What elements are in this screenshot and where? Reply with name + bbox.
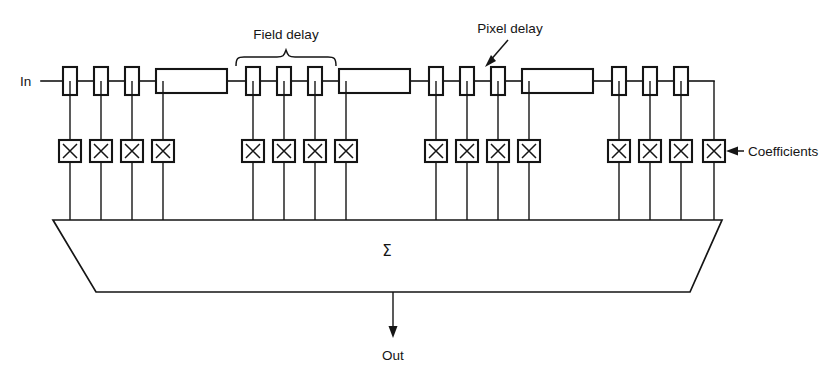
- tap-lines-lower: [70, 162, 714, 220]
- multiplier: [425, 140, 447, 162]
- field-delay-box: [522, 69, 593, 93]
- coefficients-annotation: Coefficients: [726, 144, 819, 159]
- diagram-canvas: Σ Field delay Pixel delay Coefficients I…: [0, 0, 821, 371]
- coefficients-arrowhead: [726, 147, 738, 156]
- multiplier: [121, 140, 143, 162]
- field-delay-label: Field delay: [253, 27, 319, 42]
- multiplier: [59, 140, 81, 162]
- fir-filter-diagram: Σ Field delay Pixel delay Coefficients I…: [0, 0, 821, 371]
- field-delay-box: [156, 69, 227, 93]
- delay-line: [41, 67, 714, 95]
- multiplier: [670, 140, 692, 162]
- output-arrowhead: [389, 326, 398, 338]
- multiplier: [304, 140, 326, 162]
- summation-symbol: Σ: [382, 242, 391, 260]
- multiplier-row: [59, 140, 725, 162]
- multiplier: [639, 140, 661, 162]
- field-delay-brace: [236, 50, 336, 66]
- multiplier: [487, 140, 509, 162]
- multiplier: [456, 140, 478, 162]
- field-delay-box: [339, 69, 410, 93]
- multiplier: [608, 140, 630, 162]
- pixel-delay-label: Pixel delay: [477, 21, 543, 36]
- output-label: Out: [382, 348, 404, 363]
- pixel-delay-annotation: Pixel delay: [477, 21, 543, 67]
- output-path: [389, 292, 398, 338]
- multiplier: [335, 140, 357, 162]
- summation-block: Σ: [53, 220, 722, 292]
- multiplier: [518, 140, 540, 162]
- multiplier: [152, 140, 174, 162]
- multiplier: [90, 140, 112, 162]
- coefficients-label: Coefficients: [748, 144, 819, 159]
- multiplier: [242, 140, 264, 162]
- multiplier-last: [703, 140, 725, 162]
- field-delay-annotation: Field delay: [236, 27, 336, 66]
- multiplier: [273, 140, 295, 162]
- input-label: In: [20, 74, 31, 89]
